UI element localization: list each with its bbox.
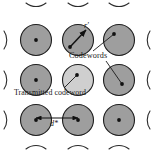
center-dot-mid-left: [34, 78, 38, 82]
arc-bottom-2: [68, 145, 88, 149]
arc-top-1: [26, 3, 46, 7]
transmitted-codeword-label: Transmitted codeword: [14, 89, 86, 97]
codeword-sphere-diagram: r' Codewords Transmitted codeword d*: [0, 0, 154, 152]
center-dot-mid-center: [75, 73, 79, 77]
min-distance-label: d*: [50, 120, 58, 128]
arc-left-1: [4, 31, 7, 49]
arc-bottom-3: [109, 145, 129, 149]
codewords-label: Codewords: [69, 52, 107, 60]
arc-left-3: [4, 111, 7, 129]
arc-top-2: [68, 3, 88, 7]
arc-top-3: [109, 3, 129, 7]
arc-bottom-1: [26, 145, 46, 149]
center-dot-top-right: [112, 32, 116, 36]
center-dot-top-left: [34, 38, 38, 42]
center-dot-bot-center: [76, 118, 80, 122]
center-dot-bot-right: [117, 118, 121, 122]
arc-right-2: [147, 71, 150, 89]
center-dot-bot-left: [34, 118, 38, 122]
center-dot-mid-right: [120, 82, 124, 86]
diagram-canvas: [0, 0, 154, 152]
arc-left-2: [4, 71, 7, 89]
sphere-top-right: [104, 25, 135, 56]
arc-right-3: [147, 111, 150, 129]
received-vector-label: r': [84, 22, 89, 30]
arc-right-1: [147, 31, 150, 49]
